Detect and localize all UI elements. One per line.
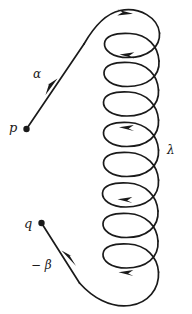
helix-turn-1 [104,33,159,61]
helix-turn-3 [103,90,158,120]
alpha-segment [27,44,85,129]
coil-lead-out [80,272,159,306]
point-q-label: q [24,217,32,230]
point-q-dot [38,220,44,226]
helix-turn-6 [102,180,158,211]
alpha-label: α [33,68,41,80]
helix-turn-4 [103,120,158,150]
beta-segment [42,223,80,283]
lambda-label: λ [167,144,175,156]
minus-beta-label: − β [31,259,52,271]
point-p-dot [23,126,29,132]
helix-turn-5 [103,150,158,180]
helix-path-drawing [0,0,192,314]
loop-arrow-3-icon [118,197,133,203]
helix-path-figure: p q α − β λ [0,0,192,314]
helix-turn-8 [103,241,159,272]
helix-turn-7 [103,211,158,241]
loop-arrow-4-icon [119,270,134,276]
loop-arrow-2-icon [119,125,134,131]
point-p-label: p [9,121,17,134]
helix-turn-2 [104,61,159,90]
